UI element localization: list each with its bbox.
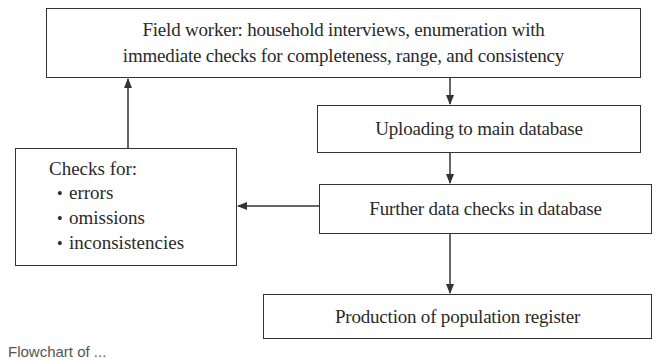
bullet-icon: • [57, 182, 69, 206]
further-checks-label: Further data checks in database [369, 196, 601, 222]
checks-item-inconsistencies: •inconsistencies [57, 231, 236, 256]
uploading-box: Uploading to main database [317, 105, 641, 153]
uploading-label: Uploading to main database [375, 116, 582, 142]
field-worker-line1: Field worker: household interviews, enum… [142, 17, 544, 43]
figure-caption: Flowchart of ... [8, 343, 106, 360]
bullet-icon: • [57, 207, 69, 231]
production-box: Production of population register [263, 294, 652, 339]
checks-item-errors: •errors [57, 181, 236, 206]
production-label: Production of population register [335, 304, 580, 330]
further-checks-box: Further data checks in database [319, 184, 652, 234]
checks-item-omissions: •omissions [57, 206, 236, 231]
checks-for-box: Checks for: •errors •omissions •inconsis… [15, 148, 237, 266]
field-worker-box: Field worker: household interviews, enum… [46, 8, 641, 78]
checks-for-title: Checks for: [49, 157, 236, 181]
checks-list: •errors •omissions •inconsistencies [49, 181, 236, 256]
field-worker-line2: immediate checks for completeness, range… [123, 43, 564, 69]
bullet-icon: • [57, 232, 69, 256]
